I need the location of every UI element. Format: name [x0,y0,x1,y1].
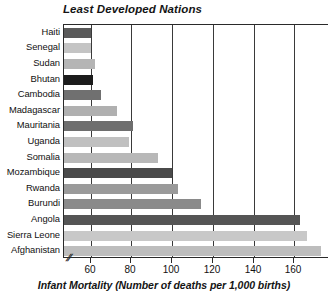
x-tick-label: 100 [151,264,191,276]
bar-bhutan [64,75,93,85]
category-label-burundi: Burundi [0,198,60,208]
bar-haiti [64,28,91,38]
bar-madagascar [64,106,117,116]
x-tick-60 [90,258,91,263]
x-tick-80 [130,258,131,263]
x-tick-120 [212,258,213,263]
x-tick-label: 60 [70,264,110,276]
bar-uganda [64,137,129,147]
category-label-senegal: Senegal [0,42,60,52]
bar-mauritania [64,121,133,131]
x-tick-label: 160 [273,264,313,276]
category-label-sierra-leone: Sierra Leone [0,230,60,240]
bar-cambodia [64,90,101,100]
category-label-rwanda: Rwanda [0,183,60,193]
bar-rwanda [64,184,178,194]
category-label-mozambique: Mozambique [0,167,60,177]
bar-somalia [64,153,158,163]
bar-burundi [64,199,201,209]
x-tick-140 [253,258,254,263]
x-tick-100 [171,258,172,263]
category-label-madagascar: Madagascar [0,105,60,115]
bar-mozambique [64,168,172,178]
bar-senegal [64,43,91,53]
category-label-afghanistan: Afghanistan [0,245,60,255]
category-label-bhutan: Bhutan [0,74,60,84]
category-label-mauritania: Mauritania [0,120,60,130]
category-axis-labels: HaitiSenegalSudanBhutanCambodiaMadagasca… [0,24,60,258]
category-label-haiti: Haiti [0,27,60,37]
plot-area [63,24,328,258]
bar-sudan [64,59,95,69]
x-tick-label: 80 [110,264,150,276]
category-label-sudan: Sudan [0,58,60,68]
category-label-cambodia: Cambodia [0,89,60,99]
category-label-somalia: Somalia [0,152,60,162]
category-label-angola: Angola [0,214,60,224]
value-axis: // 6080100120140160 [63,258,328,278]
x-axis-title: Infant Mortality (Number of deaths per 1… [0,279,328,291]
x-tick-label: 120 [192,264,232,276]
category-label-uganda: Uganda [0,136,60,146]
bar-afghanistan [64,246,321,256]
x-tick-160 [293,258,294,263]
chart-title: Least Developed Nations [63,0,328,18]
bar-angola [64,215,300,225]
bar-sierra-leone [64,231,307,241]
x-tick-label: 140 [233,264,273,276]
infant-mortality-bar-chart: Least Developed Nations HaitiSenegalSuda… [0,0,328,297]
